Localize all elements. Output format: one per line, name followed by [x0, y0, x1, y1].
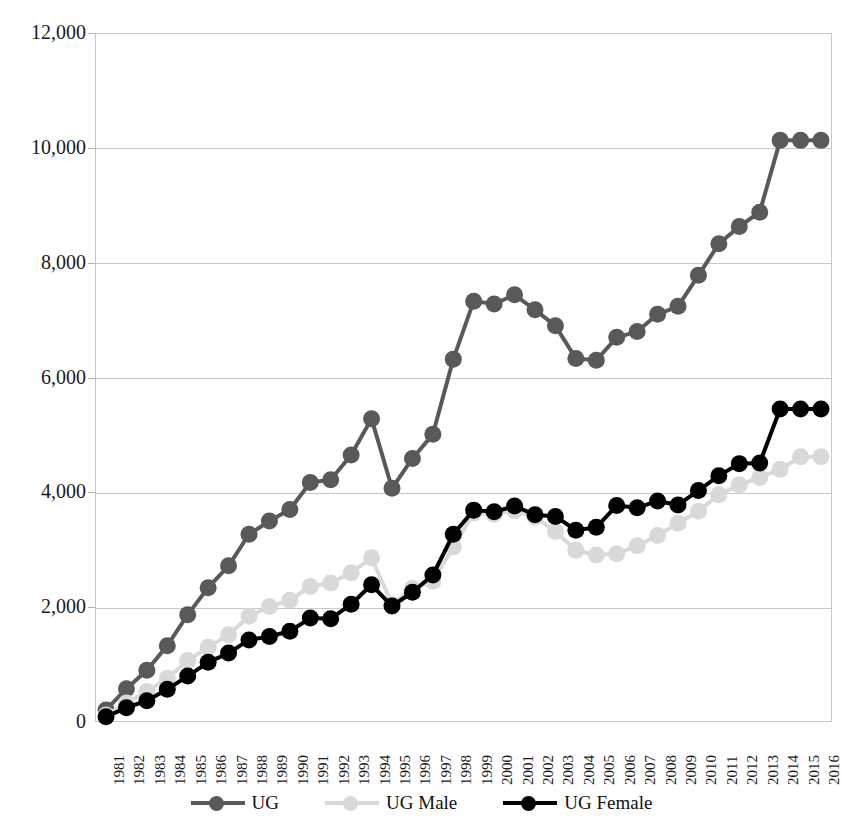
x-axis-label: 2009 [684, 755, 699, 785]
x-axis-label: 2006 [623, 755, 638, 785]
data-point [792, 132, 809, 149]
data-point [649, 527, 666, 544]
data-point [710, 467, 727, 484]
data-point [690, 482, 707, 499]
y-axis-label: 6,000 [0, 367, 86, 387]
x-axis-tick-group: 1993 [351, 727, 352, 787]
data-point [690, 267, 707, 284]
data-point [261, 513, 278, 530]
x-axis-tick-group: 1997 [433, 727, 434, 787]
data-point [465, 293, 482, 310]
y-axis-label: 4,000 [0, 481, 86, 501]
x-axis-label: 1981 [112, 755, 127, 785]
x-axis-label: 1998 [459, 755, 474, 785]
y-axis-label: 10,000 [0, 137, 86, 157]
data-point [588, 546, 605, 563]
data-point [200, 639, 217, 656]
data-point [138, 662, 155, 679]
data-point [404, 584, 421, 601]
x-axis-label: 2004 [582, 755, 597, 785]
data-point [343, 564, 360, 581]
data-point [363, 576, 380, 593]
x-axis-label: 1999 [480, 755, 495, 785]
x-axis-label: 1991 [316, 755, 331, 785]
legend-ug-male[interactable]: UG Male [325, 792, 457, 814]
data-point [465, 502, 482, 519]
data-point [710, 235, 727, 252]
data-point [424, 567, 441, 584]
x-axis-tick-group: 1990 [290, 727, 291, 787]
data-point [567, 542, 584, 559]
data-point [322, 575, 339, 592]
x-axis-tick-group: 2009 [678, 727, 679, 787]
x-axis-tick-group: 2008 [658, 727, 659, 787]
chart-legend: UGUG MaleUG Female [0, 792, 843, 814]
data-point [281, 501, 298, 518]
x-axis-label: 1987 [235, 755, 250, 785]
data-point [486, 296, 503, 313]
data-point [731, 455, 748, 472]
series-layer [95, 33, 832, 722]
x-axis-tick-group: 1989 [269, 727, 270, 787]
x-axis-label: 2008 [664, 755, 679, 785]
data-point [527, 506, 544, 523]
data-point [241, 608, 258, 625]
x-axis-tick-group: 2016 [821, 727, 822, 787]
series-ug-female [98, 401, 830, 726]
data-point [220, 557, 237, 574]
x-axis-tick-group: 2014 [780, 727, 781, 787]
x-axis-tick-group: 1994 [372, 727, 373, 787]
x-axis-tick-group: 1986 [208, 727, 209, 787]
data-point [261, 598, 278, 615]
data-point [281, 623, 298, 640]
x-axis-tick-group: 2011 [719, 727, 720, 787]
data-point [404, 450, 421, 467]
data-point [281, 592, 298, 609]
legend-ug[interactable]: UG [191, 792, 279, 814]
data-point [772, 132, 789, 149]
data-point [384, 480, 401, 497]
x-axis-tick-group: 1988 [249, 727, 250, 787]
data-point [343, 596, 360, 613]
data-point [159, 637, 176, 654]
data-point [772, 401, 789, 418]
data-point [363, 410, 380, 427]
x-axis-label: 1989 [275, 755, 290, 785]
legend-marker-icon [325, 793, 379, 813]
x-axis-label: 2011 [725, 756, 740, 785]
x-axis-label: 2003 [561, 755, 576, 785]
data-point [179, 668, 196, 685]
data-point [547, 317, 564, 334]
x-axis-label: 2013 [766, 755, 781, 785]
x-axis-label: 2000 [500, 755, 515, 785]
data-point [649, 492, 666, 509]
x-axis-label: 2016 [827, 755, 842, 785]
y-axis-tick [88, 607, 95, 608]
y-axis-label: 12,000 [0, 22, 86, 42]
series-line [106, 409, 821, 717]
x-axis-tick-group: 1983 [147, 727, 148, 787]
data-point [159, 681, 176, 698]
data-point [588, 352, 605, 369]
legend-ug-female[interactable]: UG Female [503, 792, 652, 814]
x-axis-tick-group: 1984 [167, 727, 168, 787]
series-ug [98, 132, 830, 719]
y-axis-tick [88, 263, 95, 264]
data-point [200, 579, 217, 596]
data-point [179, 652, 196, 669]
x-axis-label: 1988 [255, 755, 270, 785]
legend-label: UG Female [564, 792, 652, 814]
y-axis-tick [88, 378, 95, 379]
data-point [670, 298, 687, 315]
data-point [751, 455, 768, 472]
chart-title [0, 0, 843, 5]
data-point [690, 503, 707, 520]
data-point [424, 426, 441, 443]
data-point [179, 606, 196, 623]
x-axis-tick-group: 2000 [494, 727, 495, 787]
x-axis-tick-group: 1998 [453, 727, 454, 787]
x-axis-tick-group: 2012 [739, 727, 740, 787]
y-axis-tick [88, 33, 95, 34]
data-point [527, 301, 544, 318]
data-point [302, 578, 319, 595]
